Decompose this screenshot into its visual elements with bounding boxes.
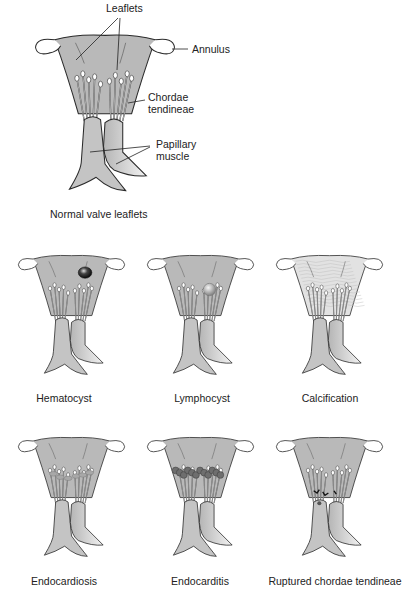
chorda-tip: [315, 469, 318, 474]
chorda-tip: [87, 283, 90, 288]
chorda-tip: [311, 283, 314, 288]
caption-hematocyst: Hematocyst: [14, 392, 114, 404]
caption-endocarditis: Endocarditis: [150, 575, 250, 587]
chorda-tip: [57, 287, 60, 292]
chorda-tip: [325, 291, 328, 296]
papillary-muscle-right: [70, 502, 103, 546]
chorda-tip: [216, 283, 219, 288]
endocardiosis-nodule: [64, 476, 72, 481]
chorda-tip: [113, 72, 117, 78]
chorda-tip: [98, 81, 102, 87]
caption-lymphocyst: Lymphocyst: [152, 392, 252, 404]
leaflet-funnel: [33, 437, 110, 497]
leaflet-funnel: [162, 255, 239, 315]
hematocyst-valve-illustration: [14, 250, 129, 380]
chorda-tip: [93, 74, 97, 80]
chorda-tip: [348, 286, 351, 291]
chorda-tip: [78, 466, 81, 471]
chorda-tip: [78, 284, 81, 289]
chorda-tip: [62, 285, 65, 290]
label-chordae-line1: Chordae: [148, 91, 194, 103]
chorda-tip: [186, 287, 189, 292]
leaflet-funnel: [33, 255, 110, 315]
label-papillary-muscle: Papillary muscle: [156, 138, 196, 162]
chorda-tip: [125, 71, 129, 77]
chorda-tip: [182, 283, 185, 288]
endocardiosis-nodule: [56, 475, 64, 480]
chorda-tip: [130, 75, 134, 81]
rupture-fragment: [317, 501, 321, 505]
chorda-tip: [53, 465, 56, 470]
ruptured-chordae-valve-illustration: [272, 432, 387, 562]
papillary-muscle-right: [104, 119, 147, 176]
label-leaflets: Leaflets: [106, 2, 143, 14]
caption-ruptured-chordae: Ruptured chordae tendineae: [262, 575, 408, 587]
papillary-muscle-right: [199, 320, 232, 364]
endocardiosis-nodule: [49, 472, 57, 477]
chorda-tip: [75, 75, 79, 81]
endocarditis-valve-illustration: [143, 432, 258, 562]
chorda-tip: [315, 287, 318, 292]
chorda-tip: [336, 466, 339, 471]
chorda-tip: [320, 467, 323, 472]
chorda-tip: [73, 288, 76, 293]
caption-calcification: Calcification: [280, 392, 380, 404]
label-papillary-line2: muscle: [156, 150, 196, 162]
chorda-tip: [119, 78, 123, 84]
chorda-tip: [177, 286, 180, 291]
vegetation-lesion: [217, 472, 224, 479]
endocardiosis-valve-illustration: [14, 432, 129, 562]
chorda-tip: [311, 465, 314, 470]
chorda-tip: [216, 465, 219, 470]
lymphocyst-valve-illustration: [143, 250, 258, 380]
chorda-tip: [348, 468, 351, 473]
chorda-tip: [57, 469, 60, 474]
label-papillary-line1: Papillary: [156, 138, 196, 150]
chorda-tip: [345, 283, 348, 288]
chorda-tip: [340, 288, 343, 293]
chorda-tip: [48, 286, 51, 291]
chorda-tip: [331, 288, 334, 293]
leaflet-funnel: [291, 437, 368, 497]
caption-endocardiosis: Endocardiosis: [14, 575, 114, 587]
papillary-muscle-right: [328, 502, 361, 546]
chorda-tip: [90, 286, 93, 291]
chorda-tip: [196, 291, 199, 296]
chorda-tip: [81, 71, 85, 77]
chorda-tip: [320, 285, 323, 290]
chorda-tip: [53, 283, 56, 288]
papillary-muscle-right: [70, 320, 103, 364]
label-annulus: Annulus: [192, 43, 230, 55]
hematocyst-nodule: [78, 267, 92, 278]
chorda-tip: [87, 77, 91, 83]
chorda-tip: [306, 286, 309, 291]
papillary-muscle-right: [328, 320, 361, 364]
chorda-tip: [331, 470, 334, 475]
chorda-tip: [219, 286, 222, 291]
chorda-tip: [107, 78, 111, 84]
papillary-muscle-right: [199, 502, 232, 546]
chorda-tip: [82, 288, 85, 293]
endocardiosis-nodule: [86, 470, 94, 475]
chorda-tip: [62, 467, 65, 472]
chorda-tip: [191, 285, 194, 290]
chorda-tip: [336, 284, 339, 289]
chorda-tip: [67, 291, 70, 296]
lymphocyst-nodule: [203, 283, 215, 295]
leaflet-funnel: [55, 35, 156, 114]
label-chordae-tendineae: Chordae tendineae: [148, 91, 194, 115]
chorda-tip: [306, 468, 309, 473]
chorda-tip: [182, 465, 185, 470]
label-chordae-line2: tendineae: [148, 103, 194, 115]
calcification-valve-illustration: [272, 250, 387, 380]
chorda-tip: [325, 473, 328, 478]
chorda-tip: [340, 470, 343, 475]
chorda-tip: [87, 465, 90, 470]
caption-normal-valve: Normal valve leaflets: [50, 208, 147, 220]
chorda-tip: [345, 465, 348, 470]
